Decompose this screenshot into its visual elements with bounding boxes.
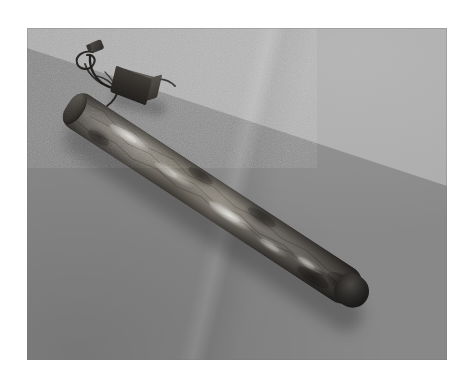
screenshot-root xyxy=(0,0,474,386)
photograph xyxy=(27,28,447,360)
